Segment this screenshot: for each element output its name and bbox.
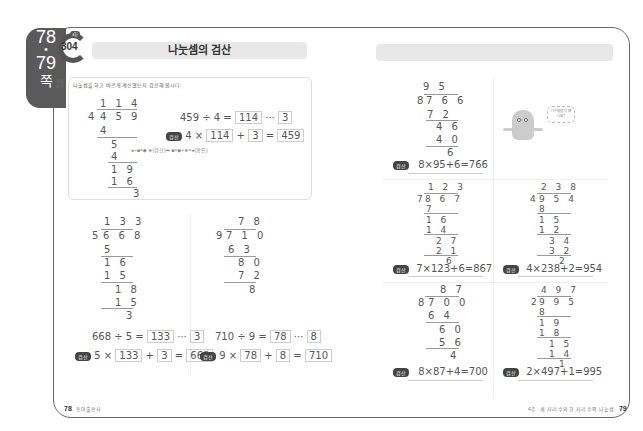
plus: + (237, 130, 245, 141)
speech-bubble: 나눗셈을 다 했나요? (547, 106, 575, 123)
concept-label: 개념 원리 (56, 79, 66, 89)
dividend: 4 5 9 (100, 111, 140, 122)
step: 6 3 (228, 244, 253, 255)
check-expression: 2×497+1=995 (526, 366, 602, 377)
example-check: 검산 4 × 114 + 3 = 459 (166, 129, 304, 142)
step: 1 9 (111, 164, 136, 175)
quotient: 1 2 3 (428, 182, 466, 192)
quotient: 7 8 (238, 216, 263, 227)
check-hint: ●÷■=◆ ★(검산)➡ ■×◆+★=●(확인) (131, 146, 208, 153)
problem-equation: 668 ÷ 5 = 133 ··· 3 (92, 330, 204, 343)
bracket-line (537, 296, 571, 297)
answer-line (408, 380, 483, 381)
equals: = (266, 130, 274, 141)
divisor: 5 (92, 230, 101, 241)
check-quotient: 78 (240, 349, 261, 362)
sub-line (537, 234, 571, 235)
divisor: 8 (418, 297, 427, 308)
quotient-answer: 133 (147, 330, 174, 343)
check-expression: 8×95+6=766 (418, 159, 488, 170)
step: 1 5 (539, 215, 562, 225)
remainder-answer: 3 (278, 111, 292, 124)
step: 3 (126, 310, 135, 321)
step: 6 0 (439, 324, 464, 335)
check-divisor: 9 × (219, 350, 237, 361)
step: 2 7 (436, 236, 459, 246)
row-divider (383, 179, 608, 180)
problem-check: 검산 7×123+6=867 (393, 263, 492, 274)
step: 1 9 (539, 318, 562, 328)
sub-line (424, 213, 458, 214)
check-divisor: 4 × (185, 130, 203, 141)
answer-line (518, 276, 593, 277)
sub-line (537, 213, 571, 214)
sub-line (424, 234, 458, 235)
mascot-image (512, 110, 534, 140)
bracket-line (425, 296, 459, 297)
divisor: 8 (417, 95, 426, 106)
step: 4 (450, 350, 459, 361)
dividend: 8 6 7 (425, 194, 463, 204)
equation-left: 459 ÷ 4 = (180, 112, 232, 123)
sub-line (224, 256, 256, 257)
sub-line (97, 137, 137, 138)
equals: = (175, 350, 183, 361)
problem-check: 검산 9 × 78 + 8 = 710 (200, 349, 332, 362)
remainder-sep: ··· (265, 112, 275, 123)
step: 1 5 (549, 339, 572, 349)
sub-line (101, 282, 133, 283)
check-result: 710 (305, 349, 332, 362)
equals: = (293, 350, 301, 361)
problem-check: 검산 2×497+1=995 (503, 366, 602, 377)
dividend: 7 0 0 (428, 297, 468, 308)
step: 4 0 (436, 134, 461, 145)
answer-line (408, 173, 483, 174)
sub-line (426, 322, 459, 323)
check-remainder: 3 (248, 129, 262, 142)
step: 4 (100, 125, 109, 136)
footer-left: 78동아출판사 (64, 405, 101, 412)
check-expression: 4×238+2=954 (526, 263, 602, 274)
day-badge-label: 4일 (70, 31, 80, 37)
problem-check: 검산 5 × 133 + 3 = 668 (75, 349, 213, 362)
dividend: 6 6 8 (103, 230, 143, 241)
sub-line (537, 358, 571, 359)
step: 4 6 (436, 121, 461, 132)
step: 1 6 (111, 176, 136, 187)
step: 1 6 (104, 257, 129, 268)
step: 1 8 (115, 284, 140, 295)
problem-equation: 710 ÷ 9 = 78 ··· 8 (215, 330, 321, 343)
plus: + (146, 350, 154, 361)
problem-check: 검산 4×238+2=954 (503, 263, 602, 274)
quotient: 1 3 3 (104, 216, 144, 227)
check-divisor: 5 × (94, 350, 112, 361)
quotient-answer: 114 (235, 111, 262, 124)
row-divider (383, 282, 608, 283)
step: 1 5 (115, 297, 140, 308)
quotient: 4 9 7 (541, 285, 579, 295)
check-pill: 검산 (393, 161, 409, 170)
bracket-line (537, 193, 571, 194)
sub-line (101, 256, 133, 257)
step: 8 0 (238, 257, 263, 268)
answer-line (518, 380, 593, 381)
check-pill: 검산 (393, 368, 409, 377)
bracket-line (101, 229, 133, 230)
bracket-line (97, 109, 137, 110)
column-divider (493, 78, 494, 398)
equation-left: 710 ÷ 9 = (215, 331, 267, 342)
divisor: 9 (216, 230, 225, 241)
step: 7 2 (427, 109, 452, 120)
check-pill: 검산 (166, 132, 182, 141)
bracket-line (224, 229, 256, 230)
bracket-line (424, 193, 458, 194)
step: 1 5 (104, 270, 129, 281)
step: 3 4 (549, 236, 572, 246)
check-pill: 검산 (503, 265, 519, 274)
page-number: 78 (64, 405, 72, 412)
step: 6 4 (428, 310, 453, 321)
remainder-sep: ··· (177, 331, 187, 342)
check-quotient: 114 (206, 129, 233, 142)
title-bar-right (376, 44, 613, 61)
check-pill: 검산 (503, 368, 519, 377)
